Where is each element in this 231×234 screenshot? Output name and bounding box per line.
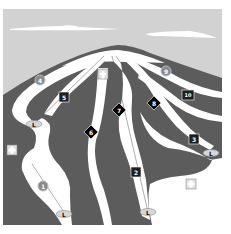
svg-text:L: L	[209, 150, 213, 157]
svg-text:7: 7	[117, 107, 121, 114]
svg-text:3: 3	[192, 136, 196, 143]
trail-marker-3[interactable]: 3	[189, 134, 199, 144]
lift-station[interactable]: L	[26, 121, 42, 128]
first-aid-icon[interactable]	[98, 69, 108, 79]
trail-marker-1[interactable]: 1	[38, 181, 48, 191]
svg-text:2: 2	[134, 169, 138, 176]
svg-text:9: 9	[164, 68, 168, 75]
lift-station[interactable]: L	[56, 211, 72, 218]
trail-marker-10[interactable]: 10	[182, 90, 194, 100]
trail-marker-4[interactable]: 4	[35, 75, 45, 85]
svg-text:4: 4	[38, 77, 42, 84]
trail-marker-9[interactable]: 9	[161, 66, 171, 76]
ski-trail-map: 1 2 3 4 5 6 7 8 9 10 L L	[0, 0, 231, 234]
svg-text:1: 1	[41, 183, 45, 190]
lift-station[interactable]: L	[140, 209, 156, 216]
svg-text:L: L	[62, 211, 66, 218]
svg-text:5: 5	[62, 94, 66, 101]
first-aid-icon[interactable]	[186, 179, 196, 189]
svg-text:6: 6	[89, 129, 93, 136]
svg-text:10: 10	[185, 92, 192, 98]
trail-marker-5[interactable]: 5	[59, 92, 69, 102]
svg-text:8: 8	[152, 100, 156, 107]
first-aid-icon[interactable]	[7, 145, 17, 155]
svg-text:L: L	[146, 209, 150, 216]
trail-marker-2[interactable]: 2	[131, 167, 141, 177]
lift-station[interactable]: L	[203, 150, 219, 157]
svg-text:L: L	[32, 121, 36, 128]
